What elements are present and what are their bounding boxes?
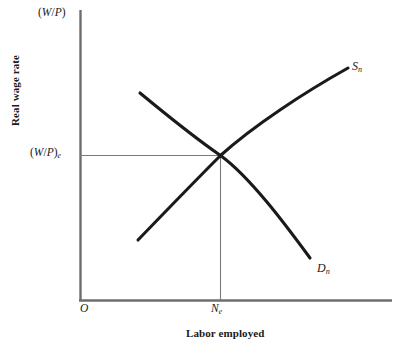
labour-demand-curve-label: Dn <box>317 262 330 276</box>
y-axis-variable-label: (W/P) <box>38 7 66 19</box>
labour-demand-curve <box>140 93 310 258</box>
plot-area <box>0 0 414 353</box>
equilibrium-wage-tick-label: (W/P)e <box>30 147 61 160</box>
labour-supply-curve <box>138 68 348 240</box>
equilibrium-employment-tick-label: Ne <box>211 303 222 316</box>
y-axis-title: Real wage rate <box>10 55 21 126</box>
origin-label: O <box>80 303 88 315</box>
x-axis-title: Labor employed <box>186 328 265 339</box>
labor-market-equilibrium-figure: Real wage rate Labor employed (W/P) O (W… <box>0 0 414 353</box>
labour-supply-curve-label: Sn <box>352 60 362 74</box>
